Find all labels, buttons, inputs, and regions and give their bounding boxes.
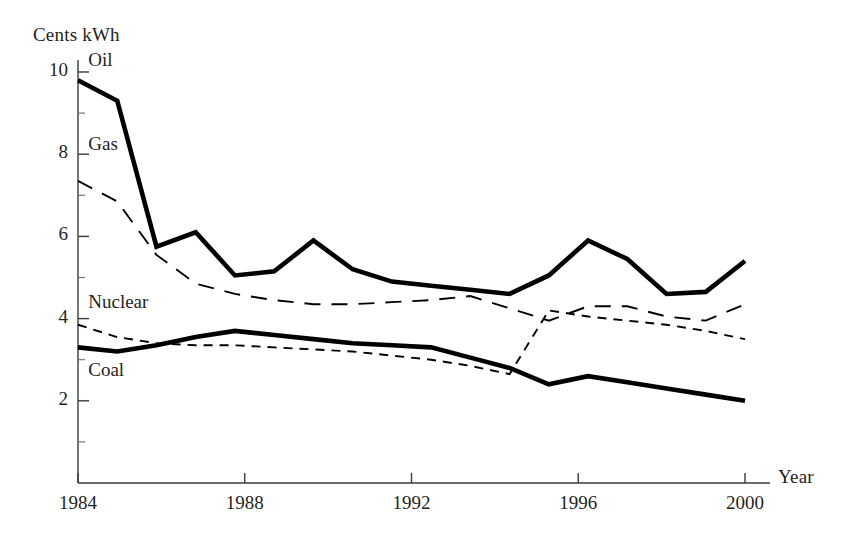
chart-container: Cents kWh Year 10 8 6 4 2 1984 1988 1992…: [0, 0, 865, 550]
axes-group: [78, 60, 770, 483]
series-line-oil: [78, 80, 745, 294]
series-line-gas: [78, 181, 745, 321]
plot-area: [0, 0, 865, 550]
series-group: [78, 80, 745, 401]
series-line-coal: [78, 331, 745, 401]
